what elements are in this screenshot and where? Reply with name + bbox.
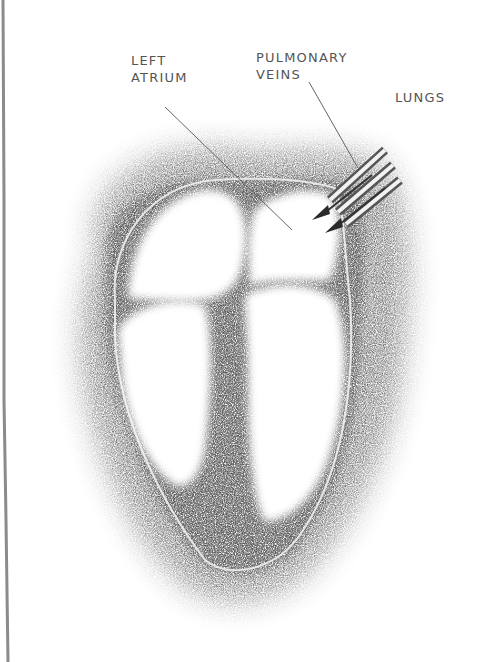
left-atrium: [249, 190, 340, 285]
label-left-atrium-line1: LEFT: [131, 52, 188, 69]
label-left-atrium-line2: ATRIUM: [131, 69, 188, 86]
label-pulmonary-veins: PULMONARY VEINS: [256, 49, 348, 83]
label-pulmonary-veins-line1: PULMONARY: [256, 49, 348, 66]
margin-line: [3, 0, 8, 662]
label-lungs: LUNGS: [395, 89, 445, 106]
label-pulmonary-veins-line2: VEINS: [256, 66, 348, 83]
label-left-atrium: LEFT ATRIUM: [131, 52, 188, 86]
